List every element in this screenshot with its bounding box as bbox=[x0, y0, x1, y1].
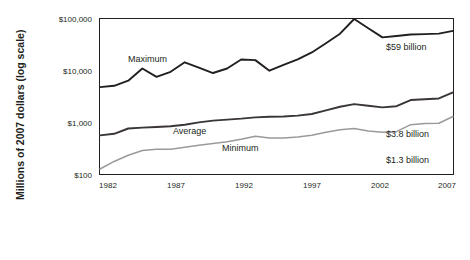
x-tick-label-2007: 2007 bbox=[438, 181, 456, 190]
x-tick-label-2002: 2002 bbox=[371, 181, 389, 190]
x-tick-label-1987: 1987 bbox=[167, 181, 185, 190]
x-tick-label-1992: 1992 bbox=[235, 181, 253, 190]
y-axis-title: Millions of 2007 dollars (log scale) bbox=[14, 30, 26, 200]
x-tick-label-1997: 1997 bbox=[303, 181, 321, 190]
series-label-maximum: Maximum bbox=[128, 54, 167, 64]
annotation-minimum-value: $1.3 billion bbox=[386, 155, 429, 165]
y-tick-label-10000: $10,000 bbox=[63, 67, 92, 76]
annotation-max-value: $59 billion bbox=[386, 42, 427, 52]
y-tick-label-100: $100 bbox=[74, 171, 92, 180]
series-label-average: Average bbox=[173, 126, 206, 136]
chart-container: Millions of 2007 dollars (log scale) $10… bbox=[0, 0, 470, 260]
annotation-average-value: $3.8 billion bbox=[386, 129, 429, 139]
y-tick-label-100000: $100,000 bbox=[59, 15, 93, 24]
y-tick-label-1000: $1,000 bbox=[68, 119, 93, 128]
line-chart: Millions of 2007 dollars (log scale) $10… bbox=[0, 0, 470, 260]
series-label-minimum: Minimum bbox=[222, 143, 259, 153]
x-tick-label-1982: 1982 bbox=[99, 181, 117, 190]
